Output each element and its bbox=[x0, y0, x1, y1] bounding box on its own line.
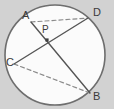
vertex-label-c: C bbox=[6, 56, 14, 68]
vertex-label-a: A bbox=[22, 9, 30, 21]
vertex-label-d: D bbox=[93, 6, 101, 18]
intersection-point-marker bbox=[45, 38, 48, 41]
geometry-canvas: A D C B P bbox=[0, 0, 114, 109]
geometry-figure: A D C B P bbox=[0, 0, 114, 109]
intersection-label-p: P bbox=[42, 24, 49, 35]
vertex-label-b: B bbox=[93, 90, 100, 102]
